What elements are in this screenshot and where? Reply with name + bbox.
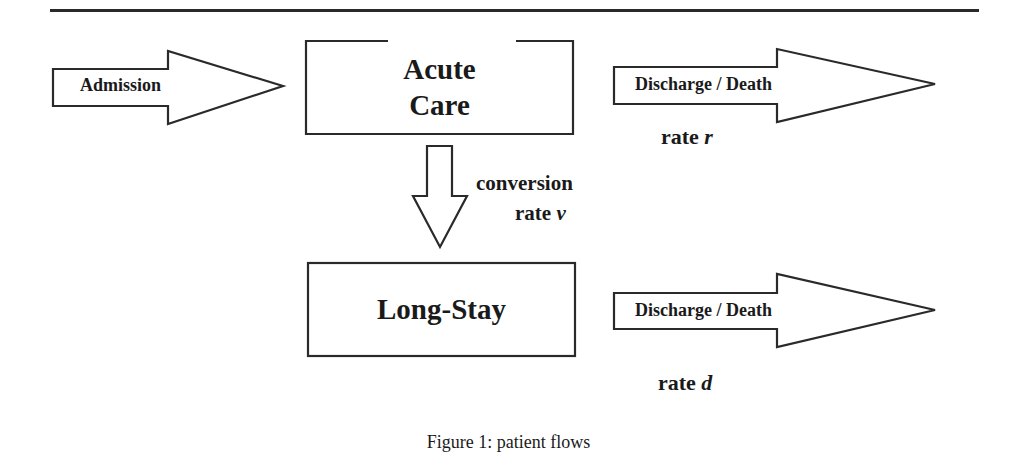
conversion-down-arrow-icon <box>413 146 467 247</box>
rate-v-symbol: v <box>556 201 565 225</box>
rate-v-label: rate v <box>515 201 566 226</box>
acute-discharge-label: Discharge / Death <box>635 74 772 95</box>
long-stay-label: Long-Stay <box>308 291 575 327</box>
acute-care-line1: Acute <box>306 51 573 87</box>
rate-d-symbol: d <box>701 370 712 395</box>
figure-caption: Figure 1: patient flows <box>0 432 1017 453</box>
rate-v-word: rate <box>515 201 551 225</box>
rate-d-label: rate d <box>658 370 712 396</box>
conversion-label: conversion <box>476 171 573 196</box>
rate-r-label: rate r <box>661 124 713 150</box>
acute-care-line2: Care <box>306 87 573 123</box>
rate-r-word: rate <box>661 124 699 149</box>
admission-label: Admission <box>80 75 161 96</box>
rate-d-word: rate <box>658 370 696 395</box>
acute-care-label: Acute Care <box>306 51 573 123</box>
rate-r-symbol: r <box>704 124 713 149</box>
longstay-discharge-label: Discharge / Death <box>635 300 772 321</box>
